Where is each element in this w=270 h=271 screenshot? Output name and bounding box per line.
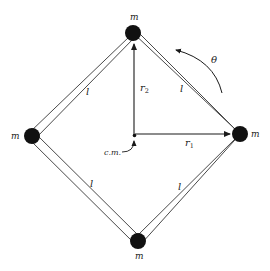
rod-top-right [130, 30, 243, 137]
r2-label: r2 [140, 82, 149, 95]
rod-bottom-right-label: l [178, 181, 181, 192]
theta-label: θ [211, 54, 217, 65]
mass-top-label: m [130, 12, 139, 22]
mass-bottom [130, 233, 146, 249]
r1-label: r1 [185, 137, 194, 150]
mass-bottom-label: m [135, 251, 144, 261]
rod-bottom-left-label: l [90, 178, 93, 189]
mass-top [125, 25, 141, 41]
rod-top-right-label: l [180, 83, 183, 94]
center-of-mass-label: c.m. [104, 148, 121, 157]
rotating-square-diagram: m m m m l l l l r2 r1 θ c.m. [0, 0, 270, 271]
mass-right [232, 126, 248, 142]
rod-top-left [29, 36, 136, 139]
mass-left-label: m [11, 131, 20, 141]
rod-top-left-label: l [86, 86, 89, 97]
diagram-canvas: m m m m l l l l r2 r1 θ c.m. [0, 0, 270, 271]
mass-right-label: m [251, 129, 260, 139]
center-of-mass-dot [133, 134, 137, 138]
mass-left [24, 128, 40, 144]
cm-pointer-arrow [122, 141, 134, 152]
rod-bottom-left [29, 133, 141, 244]
